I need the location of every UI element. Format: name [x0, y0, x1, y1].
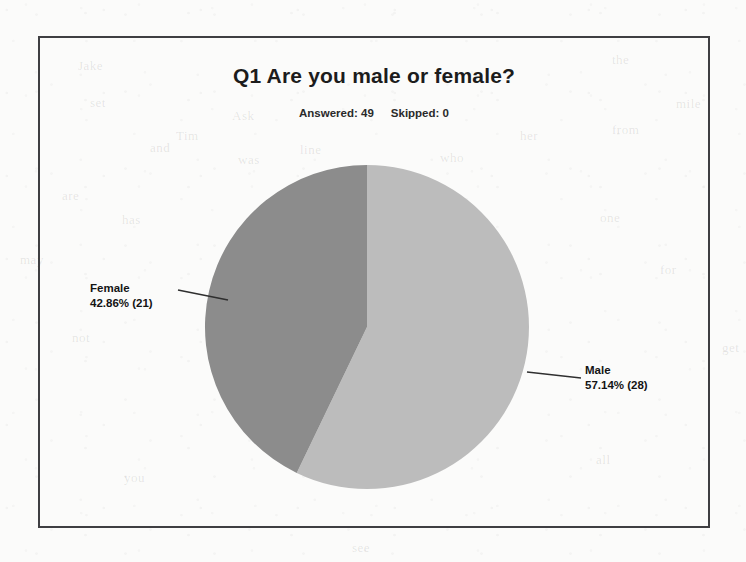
pie-label-male: Male 57.14% (28)	[585, 363, 648, 393]
pie-label-female-name: Female	[90, 281, 153, 296]
pie-label-male-value: 57.14% (28)	[585, 378, 648, 393]
pie-label-female: Female 42.86% (21)	[90, 281, 153, 311]
pie-label-male-name: Male	[585, 363, 648, 378]
pie-label-female-value: 42.86% (21)	[90, 296, 153, 311]
ghost-word: get	[722, 340, 739, 356]
chart-frame: Q1 Are you male or female? Answered: 49S…	[38, 36, 710, 528]
leader-line-male	[527, 372, 581, 378]
ghost-word: see	[352, 540, 370, 556]
